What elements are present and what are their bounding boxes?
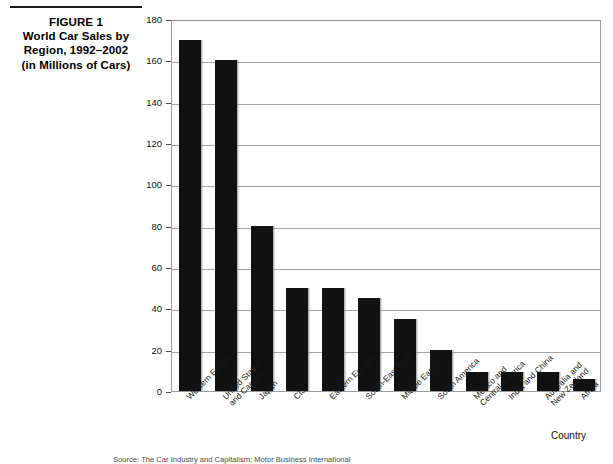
y-axis-tick-label: 0 xyxy=(0,386,162,397)
y-axis-tick-label: 100 xyxy=(0,179,162,190)
figure-source-note: Source: The Car Industry and Capitalism;… xyxy=(113,455,573,464)
x-axis-category-labels: Western EuropeUnited Statesand CanadaJap… xyxy=(171,392,601,462)
chart-plot-area xyxy=(171,20,601,392)
y-axis: 020406080100120140160180 xyxy=(0,0,171,462)
bar xyxy=(215,60,237,391)
bar xyxy=(358,298,380,391)
y-axis-tick-label: 60 xyxy=(0,262,162,273)
bar xyxy=(179,40,201,391)
bar xyxy=(322,288,344,391)
y-axis-tick-label: 120 xyxy=(0,138,162,149)
y-axis-tick-label: 140 xyxy=(0,97,162,108)
bar xyxy=(286,288,308,391)
y-axis-tick-label: 180 xyxy=(0,14,162,25)
y-axis-tick-label: 40 xyxy=(0,303,162,314)
y-axis-tick-label: 80 xyxy=(0,221,162,232)
x-axis-title: Country xyxy=(551,430,586,441)
y-axis-tick-label: 160 xyxy=(0,55,162,66)
y-axis-tick-label: 20 xyxy=(0,345,162,356)
